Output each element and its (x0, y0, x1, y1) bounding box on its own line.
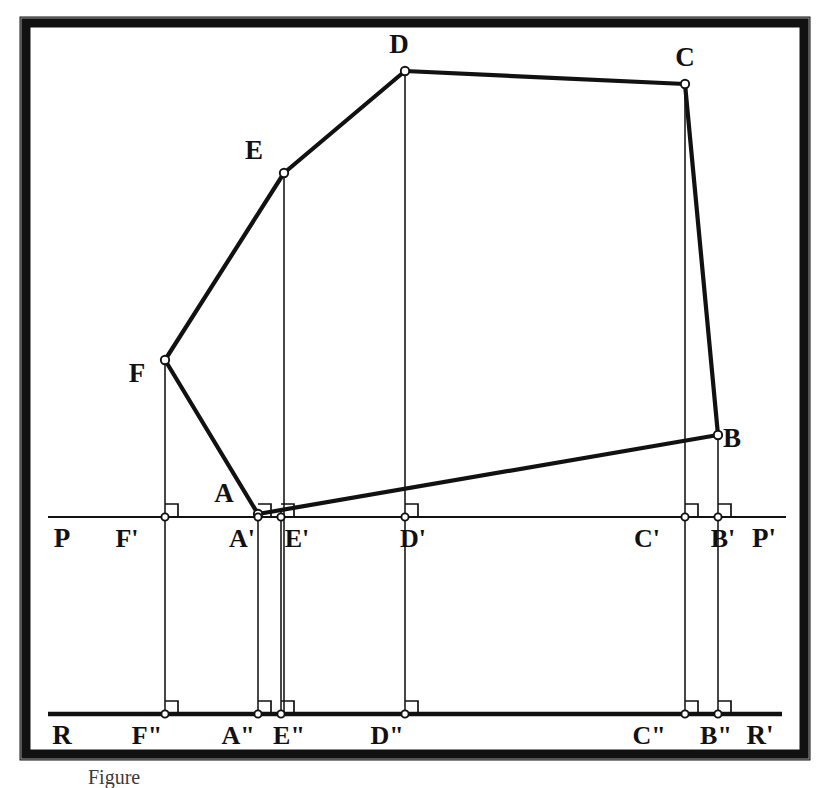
proj2-dot-d2 (401, 710, 408, 717)
proj1-dot-c1 (681, 513, 688, 520)
vertex-dot-c (681, 80, 689, 88)
vertex-dot-d (401, 67, 409, 75)
proj1-dot-e1 (277, 513, 284, 520)
label-f2: F" (132, 721, 162, 750)
frame-inner-border (36, 33, 794, 744)
proj1-dot-b1 (714, 513, 721, 520)
figure-caption: Figure (88, 766, 140, 788)
label-d: D (389, 29, 409, 59)
point-labels: ABCDEFA'B'C'D'E'F'A"B"C"D"E"F" (115, 29, 741, 750)
label-c1: C' (634, 524, 660, 553)
label-P: P (54, 523, 71, 553)
figure-root: ABCDEFA'B'C'D'E'F'A"B"C"D"E"F" P P' R R'… (0, 0, 828, 788)
label-b1: B' (711, 524, 736, 553)
label-c: C (675, 42, 695, 72)
label-b2: B" (700, 721, 732, 750)
label-a2: A" (221, 721, 254, 750)
label-d2: D" (370, 721, 403, 750)
label-P-prime: P' (752, 523, 776, 553)
label-b: B (723, 423, 741, 453)
label-c2: C" (632, 721, 665, 750)
vertex-dot-f (161, 356, 169, 364)
label-f: F (129, 358, 146, 388)
label-e2: E" (273, 721, 305, 750)
label-e1: E' (285, 524, 310, 553)
vertex-dot-b (714, 431, 722, 439)
proj2-dot-f2 (161, 710, 168, 717)
projection-diagram: ABCDEFA'B'C'D'E'F'A"B"C"D"E"F" P P' R R'… (0, 0, 828, 788)
proj2-dot-c2 (681, 710, 688, 717)
label-a1: A' (229, 524, 255, 553)
proj1-dot-a1 (254, 513, 261, 520)
label-d1: D' (400, 524, 426, 553)
label-R-prime: R' (747, 720, 774, 750)
proj2-dot-e2 (277, 710, 284, 717)
label-a: A (214, 478, 234, 508)
label-R: R (52, 720, 72, 750)
proj1-dot-d1 (401, 513, 408, 520)
label-e: E (245, 135, 263, 165)
projector-lines (165, 71, 718, 714)
figure-caption-text: Figure (88, 766, 140, 788)
proj1-dot-f1 (161, 513, 168, 520)
proj2-dot-a2 (254, 710, 261, 717)
label-f1: F' (115, 524, 138, 553)
vertex-dot-e (280, 169, 288, 177)
proj2-dot-b2 (714, 710, 721, 717)
